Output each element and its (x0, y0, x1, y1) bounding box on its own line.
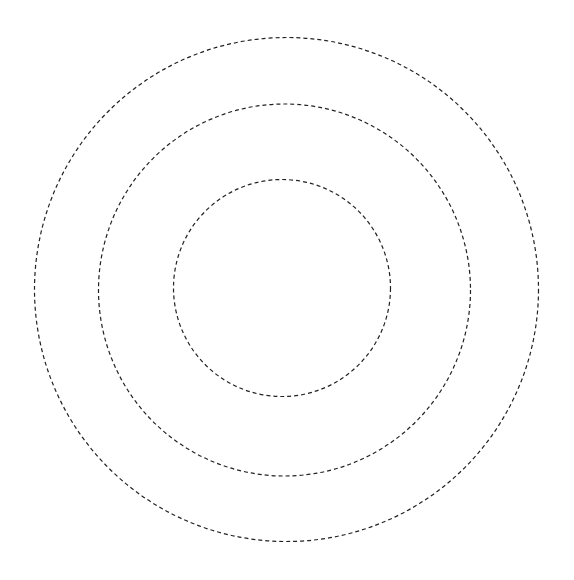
inner-circle (174, 180, 391, 397)
outer-circle (35, 38, 539, 542)
middle-circle (99, 104, 471, 476)
concentric-circles-diagram (0, 0, 574, 580)
